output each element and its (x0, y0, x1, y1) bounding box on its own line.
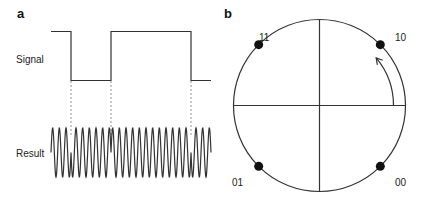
result-label: Result (16, 148, 45, 159)
state-point-10 (376, 40, 385, 49)
transition-guides (71, 81, 191, 135)
state-point-01 (254, 162, 263, 171)
state-point-00 (376, 162, 385, 171)
state-label-10: 10 (395, 32, 407, 43)
signal-waveform (51, 32, 211, 81)
figure: a Signal Result b 11 10 01 00 (0, 0, 424, 201)
state-label-00: 00 (395, 177, 407, 188)
panel-b-label: b (224, 6, 232, 21)
panel-a-label: a (17, 6, 25, 21)
state-label-01: 01 (232, 177, 244, 188)
rotation-arrow (376, 58, 393, 106)
result-waveform (51, 128, 211, 177)
state-label-11: 11 (259, 32, 270, 43)
signal-label: Signal (16, 54, 44, 65)
